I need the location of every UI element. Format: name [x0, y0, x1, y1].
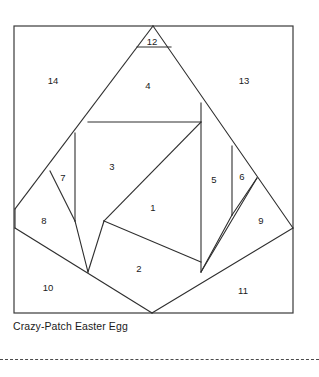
piece-number-12: 12 — [147, 36, 158, 47]
piece-number-6: 6 — [239, 171, 244, 182]
piece-number-3: 3 — [109, 161, 114, 172]
piece-number-10: 10 — [43, 282, 54, 293]
piece-number-8: 8 — [41, 215, 46, 226]
piece-number-13: 13 — [239, 75, 250, 86]
piece-number-9: 9 — [258, 215, 263, 226]
piece-number-4: 4 — [145, 80, 150, 91]
piece-number-1: 1 — [150, 202, 155, 213]
piece-number-11: 11 — [238, 285, 248, 296]
piece-number-7: 7 — [60, 172, 65, 183]
piece-number-14: 14 — [48, 75, 59, 86]
pattern-frame — [14, 26, 293, 313]
cut-line-divider — [0, 359, 319, 360]
piece-number-5: 5 — [211, 174, 216, 185]
figure-caption: Crazy-Patch Easter Egg — [13, 320, 128, 332]
piece-number-2: 2 — [136, 263, 141, 274]
